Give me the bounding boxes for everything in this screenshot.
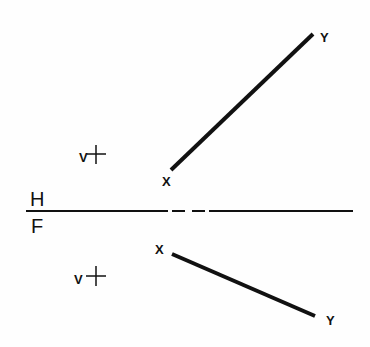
fold-label-f: F: [31, 215, 43, 237]
cross-marker-horizontal: [87, 145, 106, 164]
label-v-horizontal: V: [79, 150, 88, 165]
fold-label-h: H: [30, 188, 44, 210]
cross-marker-frontal: [86, 266, 106, 286]
drawing-canvas: H F X Y V X Y V: [0, 0, 370, 347]
projection-drawing: H F X Y V X Y V: [0, 0, 370, 347]
label-x-frontal: X: [155, 242, 164, 257]
label-v-frontal: V: [74, 272, 83, 287]
line-xy-horizontal-view: [171, 34, 313, 170]
label-x-horizontal: X: [162, 174, 171, 189]
label-y-horizontal: Y: [320, 30, 329, 45]
label-y-frontal: Y: [326, 313, 335, 328]
line-xy-frontal-view: [172, 254, 315, 316]
